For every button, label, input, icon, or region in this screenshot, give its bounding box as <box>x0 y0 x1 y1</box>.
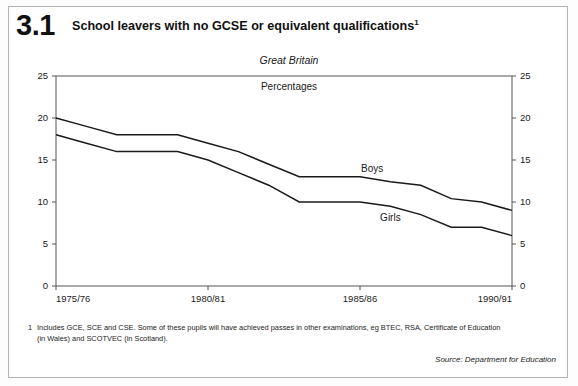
x-tick-label: 1990/91 <box>478 293 512 304</box>
x-tick-label: 1975/76 <box>56 293 90 304</box>
y-tick-label-right: 15 <box>520 154 531 165</box>
chart-series-group <box>56 118 512 236</box>
y-tick-label-left: 10 <box>37 196 48 207</box>
chart-series-labels: BoysGirls <box>361 163 401 223</box>
figure-header: 3.1 School leavers with no GCSE or equiv… <box>16 10 560 46</box>
figure-footnote: 1 Includes GCE, SCE and CSE. Some of the… <box>28 322 508 344</box>
x-axis-ticks: 1975/761980/811985/861990/91 <box>56 286 512 304</box>
y-tick-label-right: 20 <box>520 112 531 123</box>
y-tick-label-right: 0 <box>520 280 525 291</box>
y-axis-left-ticks: 0510152025 <box>37 70 56 291</box>
y-tick-label-right: 10 <box>520 196 531 207</box>
chart-region-label: Great Britain <box>0 54 578 66</box>
series-line-boys <box>56 118 512 210</box>
y-tick-label-left: 20 <box>37 112 48 123</box>
x-tick-label: 1985/86 <box>343 293 377 304</box>
x-tick-label: 1980/81 <box>191 293 225 304</box>
figure-title-footnote-marker: 1 <box>414 18 418 27</box>
figure-number: 3.1 <box>16 8 55 42</box>
footnote-text: Includes GCE, SCE and CSE. Some of these… <box>37 322 508 344</box>
y-tick-label-right: 5 <box>520 238 525 249</box>
figure-title-text: School leavers with no GCSE or equivalen… <box>72 19 414 33</box>
y-tick-label-left: 15 <box>37 154 48 165</box>
y-tick-label-left: 5 <box>43 238 48 249</box>
figure-title: School leavers with no GCSE or equivalen… <box>72 15 419 34</box>
series-label-boys: Boys <box>361 163 383 174</box>
line-chart-svg: 0510152025 0510152025 1975/761980/811985… <box>22 68 556 308</box>
chart-plot-area: 0510152025 0510152025 1975/761980/811985… <box>22 68 556 308</box>
y-tick-label-left: 25 <box>37 70 48 81</box>
y-tick-label-right: 25 <box>520 70 531 81</box>
y-tick-label-left: 0 <box>43 280 48 291</box>
series-label-girls: Girls <box>380 212 401 223</box>
series-line-girls <box>56 135 512 236</box>
figure-panel: 3.1 School leavers with no GCSE or equiv… <box>0 0 578 386</box>
figure-source: Source: Department for Education <box>435 355 556 364</box>
footnote-marker: 1 <box>28 322 32 333</box>
y-axis-right-ticks: 0510152025 <box>512 70 531 291</box>
